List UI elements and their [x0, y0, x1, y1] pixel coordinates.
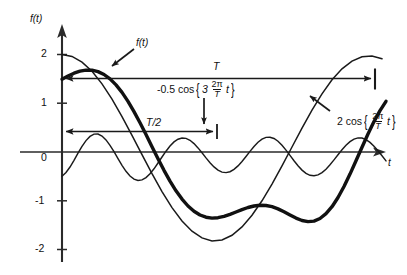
fundamental-label: 2 cos { 2π T t }	[337, 112, 397, 131]
third-harmonic-fraction: 2π T	[210, 80, 223, 99]
curve-third-harmonic	[62, 134, 386, 180]
third-harmonic-coefficient: -0.5 cos	[157, 84, 194, 95]
half-period-label: T/2	[146, 117, 161, 128]
figure-canvas: f(t) t 2 1 0 -1 -2 f(t) T T/2 -0.5 cos {…	[0, 0, 407, 275]
fundamental-close-brace: }	[392, 115, 396, 129]
y-tick-label-minus-2: -2	[35, 243, 44, 254]
fsum-callout-arrow	[112, 49, 134, 66]
third-harmonic-frac-numerator: 2π	[210, 80, 223, 89]
y-tick-label-minus-1: -1	[35, 195, 44, 206]
fundamental-frac-numerator: 2π	[371, 112, 384, 121]
fundamental-fraction: 2π T	[371, 112, 384, 131]
fundamental-frac-denominator: T	[374, 121, 382, 131]
fundamental-open-brace: {	[364, 115, 368, 129]
y-tick-label-0: 0	[41, 152, 47, 163]
period-label: T	[213, 61, 219, 72]
plot-svg	[0, 0, 407, 275]
fundamental-variable: t	[387, 116, 390, 127]
fsum-curve-label: f(t)	[136, 38, 148, 48]
y-tick-label-2: 2	[41, 48, 47, 59]
third-harmonic-variable: t	[226, 84, 229, 95]
third-harmonic-frac-denominator: T	[213, 89, 221, 99]
third-harmonic-label: -0.5 cos { 3 2π T t }	[157, 80, 236, 99]
fundamental-coefficient: 2 cos	[337, 116, 362, 127]
third-harmonic-multiplier: 3	[202, 84, 208, 95]
x-axis-label: t	[388, 158, 391, 168]
third-harmonic-open-brace: {	[196, 83, 200, 97]
axis-group	[20, 24, 386, 262]
y-tick-label-1: 1	[41, 97, 47, 108]
y-axis-label: f(t)	[30, 14, 42, 24]
third-harmonic-close-brace: }	[231, 83, 235, 97]
